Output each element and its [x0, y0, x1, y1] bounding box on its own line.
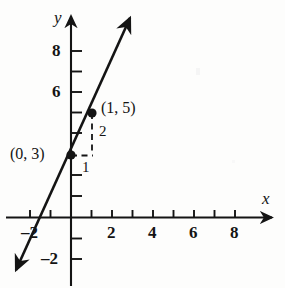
y-tick-label-neg2: –2: [41, 250, 58, 267]
x-tick-label-2: 2: [107, 224, 116, 241]
rise-label: 2: [99, 124, 107, 139]
x-tick-label-6: 6: [189, 224, 198, 241]
point-label-1-5: (1, 5): [101, 100, 136, 116]
graph-plot: [0, 0, 285, 288]
y-tick-label-6: 6: [52, 83, 61, 100]
y-axis-label: y: [54, 9, 62, 26]
x-axis-ticks: [30, 210, 235, 218]
data-point-1-5: [87, 108, 96, 117]
x-tick-label-neg2: –2: [21, 224, 38, 241]
x-tick-label-8: 8: [230, 224, 239, 241]
x-tick-label-4: 4: [148, 224, 157, 241]
figure-canvas: x y –2 2 4 6 8 8 6 –2 (0, 3) (1, 5) 2 1: [0, 0, 285, 288]
x-axis-label: x: [262, 190, 270, 207]
run-label: 1: [82, 160, 90, 175]
x-axis: [6, 210, 272, 218]
slope-triangle: [71, 113, 93, 156]
point-label-0-3: (0, 3): [10, 146, 45, 162]
data-point-0-3: [66, 150, 75, 159]
y-tick-label-8: 8: [52, 42, 61, 59]
